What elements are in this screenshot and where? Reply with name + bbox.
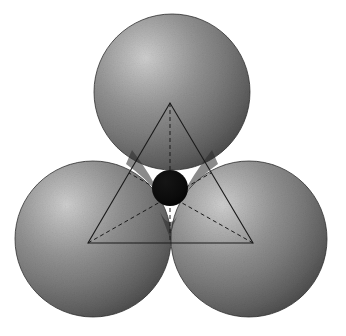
- figure-container: Trigonal interstitial site between three…: [0, 0, 346, 336]
- sphere-bottom-left: [15, 161, 171, 317]
- sphere-top: [94, 14, 250, 170]
- close-packed-spheres-diagram: [0, 0, 346, 336]
- sphere-bottom-right: [171, 161, 327, 317]
- interstitial-sphere: [152, 170, 188, 206]
